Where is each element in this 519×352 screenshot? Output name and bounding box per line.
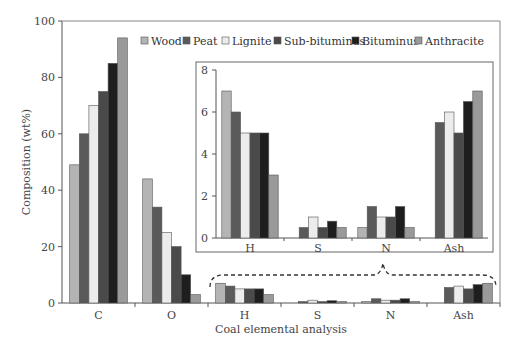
inset-bar-peat-s	[299, 228, 308, 239]
inset-bar-wood-h	[222, 91, 231, 238]
inset-bar-lignite-h	[241, 133, 250, 238]
inset-bar-peat-h	[231, 112, 240, 238]
bar-anthracite-ash	[483, 283, 493, 303]
x-category-label: C	[94, 309, 102, 322]
coal-composition-chart: 020406080100COHSNAshCoal elemental analy…	[0, 0, 519, 352]
x-category-label: Ash	[452, 309, 474, 322]
bar-peat-s	[298, 302, 308, 303]
bar-sub-bituminus-ash	[464, 289, 474, 303]
bar-peat-h	[225, 286, 235, 303]
inset-y-tick-label: 8	[201, 64, 208, 77]
legend-swatch-wood	[141, 37, 148, 44]
legend-swatch-anthracite	[415, 37, 422, 44]
bar-anthracite-s	[337, 302, 347, 303]
x-category-label: N	[386, 309, 396, 322]
inset-bar-bituminus-h	[259, 133, 268, 238]
bar-bituminus-c	[108, 63, 118, 303]
inset-bar-bituminus-ash	[463, 102, 472, 239]
x-category-label: H	[240, 309, 250, 322]
x-category-label: O	[167, 309, 176, 322]
legend-label: Bituminus	[362, 35, 419, 48]
inset-bar-anthracite-ash	[473, 91, 482, 238]
legend-label: Wood	[151, 35, 182, 48]
bar-bituminus-n	[400, 299, 410, 303]
bar-lignite-ash	[454, 286, 464, 303]
bar-wood-n	[362, 302, 372, 303]
legend: WoodPeatLigniteSub-bituminusBituminusAnt…	[141, 35, 484, 48]
inset-bar-sub-bituminus-h	[250, 133, 259, 238]
inset-y-tick-label: 4	[201, 148, 208, 161]
bar-wood-c	[70, 165, 80, 303]
legend-swatch-lignite	[222, 37, 229, 44]
bar-sub-bituminus-h	[245, 289, 255, 303]
inset-x-category-label: Ash	[443, 242, 465, 255]
bar-anthracite-c	[118, 38, 128, 303]
inset-bar-anthracite-h	[269, 175, 278, 238]
inset-bar-wood-n	[358, 228, 367, 239]
bar-peat-c	[79, 134, 89, 303]
bar-lignite-n	[381, 300, 391, 303]
y-tick-label: 100	[34, 15, 55, 28]
inset-bar-lignite-s	[309, 217, 318, 238]
x-axis-label: Coal elemental analysis	[215, 323, 347, 336]
y-tick-label: 60	[41, 128, 55, 141]
legend-swatch-sub-bituminus	[274, 37, 281, 44]
bar-anthracite-n	[410, 302, 420, 303]
inset-bar-bituminus-n	[395, 207, 404, 239]
inset-y-tick-label: 2	[201, 190, 208, 203]
bar-anthracite-h	[264, 295, 274, 303]
legend-label: Lignite	[232, 35, 271, 48]
inset-plot: 02468HSNAsh	[196, 62, 493, 255]
bar-sub-bituminus-o	[172, 247, 182, 303]
legend-swatch-bituminus	[352, 37, 359, 44]
bar-anthracite-o	[191, 295, 201, 303]
bar-lignite-o	[162, 233, 172, 304]
bar-peat-n	[371, 299, 381, 303]
inset-bar-sub-bituminus-n	[386, 217, 395, 238]
inset-bar-bituminus-s	[327, 221, 336, 238]
inset-y-tick-label: 0	[201, 232, 208, 245]
y-tick-label: 80	[41, 71, 55, 84]
inset-x-category-label: S	[314, 242, 322, 255]
legend-label: Anthracite	[424, 35, 484, 48]
inset-y-tick-label: 6	[201, 106, 208, 119]
inset-bar-sub-bituminus-s	[318, 228, 327, 239]
bar-sub-bituminus-c	[99, 92, 109, 304]
y-tick-label: 20	[41, 241, 55, 254]
inset-bar-peat-n	[367, 207, 376, 239]
bar-sub-bituminus-n	[391, 300, 401, 303]
inset-bar-lignite-ash	[445, 112, 454, 238]
inset-bracket	[210, 263, 496, 287]
bar-wood-h	[216, 283, 226, 303]
bar-bituminus-o	[181, 275, 191, 303]
bar-peat-ash	[444, 287, 454, 303]
bar-wood-o	[143, 179, 153, 303]
inset-x-category-label: N	[381, 242, 391, 255]
bar-lignite-s	[308, 300, 318, 303]
x-category-label: S	[314, 309, 322, 322]
bar-bituminus-s	[327, 301, 337, 303]
bar-bituminus-ash	[473, 285, 483, 303]
y-axis-label: Composition (wt%)	[20, 109, 33, 215]
inset-bar-anthracite-s	[337, 228, 346, 239]
inset-bar-sub-bituminus-ash	[454, 133, 463, 238]
inset-bar-anthracite-n	[405, 228, 414, 239]
bar-lignite-h	[235, 289, 245, 303]
bar-bituminus-h	[254, 289, 264, 303]
legend-swatch-peat	[183, 37, 190, 44]
bar-peat-o	[152, 207, 162, 303]
legend-label: Peat	[193, 35, 218, 48]
bar-lignite-c	[89, 106, 99, 303]
inset-bar-peat-ash	[435, 123, 444, 239]
bar-sub-bituminus-s	[318, 302, 328, 303]
inset-bar-lignite-n	[377, 217, 386, 238]
inset-x-category-label: H	[245, 242, 255, 255]
y-tick-label: 0	[48, 297, 55, 310]
y-tick-label: 40	[41, 184, 55, 197]
